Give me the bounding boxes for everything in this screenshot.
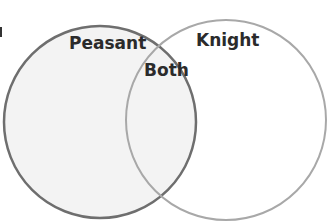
venn-diagram [0, 0, 330, 224]
peasant-circle [4, 26, 196, 218]
knight-label: Knight [196, 30, 260, 50]
peasant-label: Peasant [69, 33, 146, 53]
both-label: Both [144, 60, 189, 80]
